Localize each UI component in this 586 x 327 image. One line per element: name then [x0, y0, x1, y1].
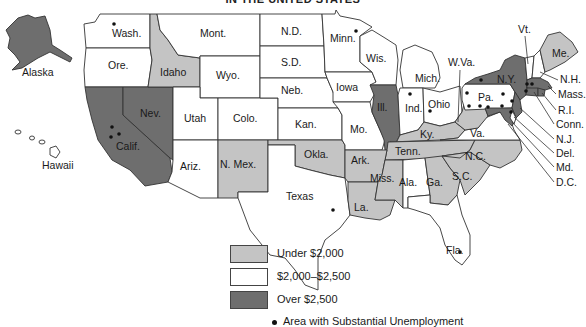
- legend-label: Area with Substantial Unemployment: [283, 315, 463, 327]
- legend-swatch-white: [230, 268, 268, 286]
- label-minn: Minn.: [330, 32, 356, 44]
- label-miss: Miss.: [370, 172, 395, 184]
- label-iowa: Iowa: [336, 81, 358, 93]
- label-tenn: Tenn.: [395, 145, 421, 157]
- label-alaska: Alaska: [22, 66, 54, 78]
- label-dc: D.C.: [556, 176, 577, 188]
- legend-label: Under $2,000: [277, 247, 344, 259]
- label-wva: W.Va.: [448, 56, 475, 68]
- label-neb: Neb.: [281, 84, 303, 96]
- label-nd: N.D.: [281, 25, 302, 37]
- label-md: Md.: [556, 161, 574, 173]
- label-pa: Pa.: [478, 91, 494, 103]
- label-utah: Utah: [184, 112, 206, 124]
- label-ind: Ind.: [405, 102, 423, 114]
- state-hawaii: [15, 130, 60, 158]
- label-va: Va.: [470, 127, 485, 139]
- label-ohio: Ohio: [428, 98, 450, 110]
- legend-swatch-dark-gray: [230, 291, 268, 309]
- label-kan: Kan.: [295, 118, 317, 130]
- label-nh: N.H.: [560, 73, 581, 85]
- label-wash: Wash.: [112, 27, 141, 39]
- label-colo: Colo.: [233, 112, 258, 124]
- legend-item-unemployment: Area with Substantial Unemployment: [272, 315, 463, 327]
- label-ark: Ark.: [351, 154, 370, 166]
- label-ri: R.I.: [558, 104, 574, 116]
- label-fla: Fla.: [446, 244, 464, 256]
- label-ore: Ore.: [108, 59, 128, 71]
- label-nmex: N. Mex.: [220, 158, 256, 170]
- dot-icon: [272, 320, 277, 325]
- label-ny: N.Y.: [497, 73, 516, 85]
- label-sd: S.D.: [281, 56, 301, 68]
- label-wyo: Wyo.: [216, 69, 240, 81]
- label-ala: Ala.: [399, 176, 417, 188]
- label-wis: Wis.: [366, 52, 386, 64]
- legend-label: $2,000–$2,500: [277, 270, 350, 282]
- label-ga: Ga.: [426, 176, 443, 188]
- label-mass: Mass.: [558, 88, 586, 100]
- label-conn: Conn.: [556, 118, 584, 130]
- label-hawaii: Hawaii: [42, 159, 74, 171]
- label-ill: Ill.: [377, 101, 388, 113]
- label-okla: Okla.: [304, 148, 329, 160]
- label-ariz: Ariz.: [180, 160, 201, 172]
- label-mo: Mo.: [350, 123, 368, 135]
- legend-swatch-light-gray: [230, 245, 268, 263]
- label-mont: Mont.: [200, 27, 226, 39]
- label-nev: Nev.: [140, 107, 161, 119]
- label-ky: Ky.: [420, 128, 434, 140]
- label-calif: Calif.: [116, 140, 140, 152]
- label-nc: N.C.: [465, 150, 486, 162]
- label-vt: Vt.: [518, 23, 531, 35]
- legend-label: Over $2,500: [277, 293, 338, 305]
- label-texas: Texas: [286, 190, 313, 202]
- label-del: Del.: [556, 147, 575, 159]
- label-idaho: Idaho: [160, 66, 186, 78]
- label-mich: Mich.: [415, 72, 440, 84]
- label-me: Me.: [552, 47, 570, 59]
- label-nj: N.J.: [556, 133, 575, 145]
- label-sc: S.C.: [452, 170, 472, 182]
- label-la: La.: [354, 201, 369, 213]
- state-alaska: [6, 15, 72, 70]
